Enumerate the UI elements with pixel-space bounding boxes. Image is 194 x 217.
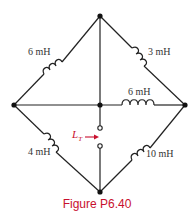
label-center-right: 6 mH (128, 86, 151, 97)
node-right (182, 102, 187, 107)
wire-upper-left (14, 74, 44, 105)
figure-caption: Figure P6.40 (0, 197, 194, 211)
node-bottom (97, 189, 102, 194)
label-lower-left: 4 mH (28, 146, 51, 157)
node-top (97, 13, 102, 18)
wire-lower-right (100, 160, 132, 192)
label-total-inductance: LT (72, 128, 82, 143)
label-upper-left: 6 mH (28, 46, 51, 57)
wire-upper-right (100, 16, 132, 48)
node-center (97, 102, 102, 107)
right-arrow-icon (85, 135, 99, 140)
inductor-upper-left (43, 59, 62, 74)
node-left (11, 102, 16, 107)
terminal-bottom (98, 144, 102, 148)
inductor-center-right (122, 100, 154, 105)
circuit-diagram (0, 0, 194, 217)
wire-lower-left (14, 105, 44, 134)
label-lower-right: 10 mH (146, 148, 174, 159)
inductor-upper-right (132, 47, 147, 66)
terminal-top (98, 126, 102, 130)
label-upper-right: 3 mH (148, 46, 171, 57)
